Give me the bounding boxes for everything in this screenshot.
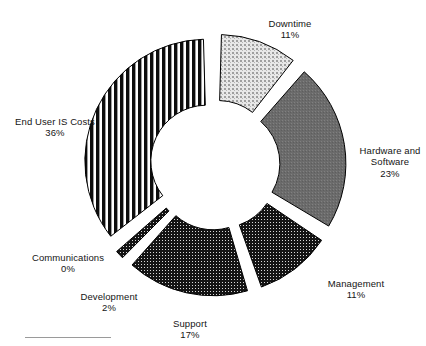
pie-slice-hardware-and-software[interactable]	[261, 72, 346, 226]
slice-label-text: Management	[328, 278, 384, 289]
slice-label-text: Hardware and Software	[360, 145, 421, 168]
slice-label-end-user-is-costs: End User IS Costs 36%	[3, 104, 107, 150]
slice-percent-text: 23%	[355, 168, 425, 180]
slice-label-text: Support	[173, 318, 207, 329]
slice-percent-text: 11%	[313, 289, 399, 301]
slice-percent-text: 17%	[150, 329, 230, 341]
slice-percent-text: 36%	[3, 127, 107, 139]
slice-layer	[85, 35, 346, 296]
slice-label-text: Downtime	[268, 18, 311, 29]
pie-slice-management[interactable]	[239, 203, 321, 287]
slice-label-hardware-and-software: Hardware and Software 23%	[355, 133, 425, 191]
slice-label-support: Support 17%	[150, 306, 230, 346]
slice-label-management: Management 11%	[313, 266, 399, 312]
slice-label-communications: Communications 0%	[18, 240, 118, 286]
slice-percent-text: 0%	[18, 263, 118, 275]
slice-label-downtime: Downtime 11%	[235, 6, 345, 52]
slice-percent-text: 11%	[235, 29, 345, 41]
slice-label-text: Development	[80, 291, 137, 302]
pie-chart: Downtime 11% Hardware and Software 23% M…	[0, 0, 426, 346]
slice-label-text: End User IS Costs	[15, 116, 95, 127]
slice-percent-text: 2%	[64, 302, 154, 314]
slice-label-text: Communications	[32, 252, 104, 263]
footnote-separator-rule	[25, 337, 111, 338]
